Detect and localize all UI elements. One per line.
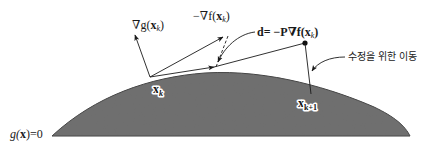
grad-g-arrow [135, 35, 150, 77]
correction-label-pointer [312, 57, 345, 71]
correction-move-label: 수정을 위한 이동 [348, 50, 417, 62]
neg-grad-f-label: −∇f(xk) [193, 9, 230, 24]
surface-shading [52, 73, 410, 136]
grad-g-label: ∇g(xk) [132, 18, 164, 33]
constraint-label: g(x)=0 [10, 127, 43, 141]
diagram-canvas: ∇g(xk) −∇f(xk) d= −P∇f(xk) 수정을 위한 이동 xk … [0, 0, 427, 146]
direction-label: d= −P∇f(xk) [257, 25, 318, 40]
projection-dashed-line [216, 36, 228, 67]
diagram-svg: ∇g(xk) −∇f(xk) d= −P∇f(xk) 수정을 위한 이동 xk … [0, 0, 427, 146]
